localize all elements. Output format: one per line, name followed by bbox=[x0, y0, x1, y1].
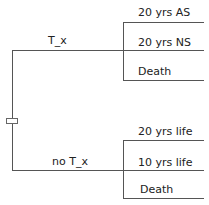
branch-no-tx-label: no T_x bbox=[52, 156, 88, 168]
outcome-label: 10 yrs life bbox=[138, 157, 193, 169]
outcome-label: 20 yrs AS bbox=[138, 7, 190, 19]
branch-no-tx-line bbox=[12, 170, 123, 171]
outcome-label: 20 yrs life bbox=[138, 126, 193, 138]
outcome-line bbox=[123, 80, 204, 81]
branch-tx-split-line bbox=[123, 22, 124, 81]
root-trunk-line bbox=[12, 50, 13, 171]
outcome-line bbox=[123, 22, 204, 23]
outcome-label: Death bbox=[140, 184, 173, 196]
outcome-line bbox=[123, 50, 204, 51]
outcome-label: 20 yrs NS bbox=[138, 37, 191, 49]
branch-tx-line bbox=[12, 50, 123, 51]
outcome-line bbox=[123, 140, 204, 141]
outcome-line bbox=[123, 198, 204, 199]
branch-tx-label: T_x bbox=[48, 35, 67, 47]
outcome-line bbox=[123, 170, 204, 171]
outcome-label: Death bbox=[138, 66, 171, 78]
decision-node-icon[interactable] bbox=[6, 118, 18, 124]
